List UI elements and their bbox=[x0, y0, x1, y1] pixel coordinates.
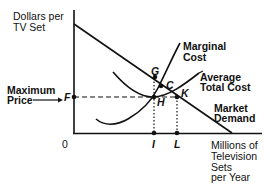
point-H bbox=[152, 95, 157, 100]
point-K bbox=[175, 95, 180, 100]
label-I: I bbox=[152, 139, 155, 150]
origin-label: 0 bbox=[62, 139, 68, 150]
label-K: K bbox=[181, 88, 189, 99]
point-F bbox=[72, 95, 77, 100]
label-F: F bbox=[64, 92, 70, 103]
point-L bbox=[175, 131, 180, 136]
label-H: H bbox=[157, 97, 165, 108]
atc-label-2: Total Cost bbox=[200, 82, 251, 93]
label-C: C bbox=[166, 80, 174, 91]
arrow-head-icon bbox=[58, 98, 63, 103]
y-axis-label-2: TV Set bbox=[13, 22, 45, 33]
label-L: L bbox=[174, 139, 180, 150]
max-price-label-2: Price bbox=[7, 95, 33, 106]
mc-label-2: Cost bbox=[183, 52, 206, 63]
x-axis-label-4: per Year bbox=[211, 172, 250, 183]
label-G: G bbox=[151, 66, 159, 77]
point-I bbox=[152, 131, 157, 136]
demand-label-2: Demand bbox=[214, 113, 255, 124]
point-C bbox=[159, 84, 164, 89]
